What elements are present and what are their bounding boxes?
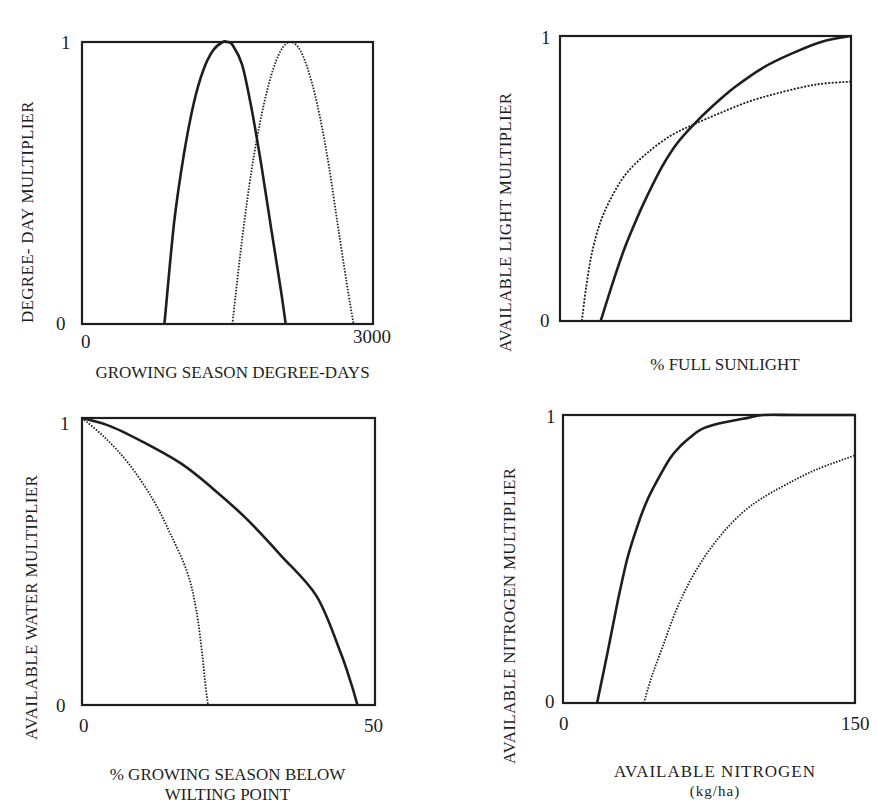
plot-area [0,0,440,400]
plot-area [440,380,877,812]
light-panel: AVAILABLE LIGHT MULTIPLIER 1 0 % FULL SU… [440,0,877,400]
series-dotted-line [582,82,851,321]
plot-area [440,0,877,400]
series-dotted-line [82,418,208,705]
plot-area [0,380,440,812]
series-solid-line [597,415,855,703]
nitrogen-panel: AVAILABLE NITROGEN MULTIPLIER 1 0 0 150 … [440,380,877,812]
series-solid-line [164,41,285,324]
plot-frame [82,42,373,324]
plot-frame [82,418,375,705]
series-dotted-line [232,42,353,324]
water-panel: AVAILABLE WATER MULTIPLIER 1 0 0 50 % GR… [0,380,440,812]
series-solid-line [82,418,357,705]
degree-day-panel: DEGREE- DAY MULTIPLIER 1 0 0 3000 GROWIN… [0,0,440,400]
series-solid-line [601,36,851,321]
series-dotted-line [644,455,855,703]
plot-frame [560,36,851,321]
